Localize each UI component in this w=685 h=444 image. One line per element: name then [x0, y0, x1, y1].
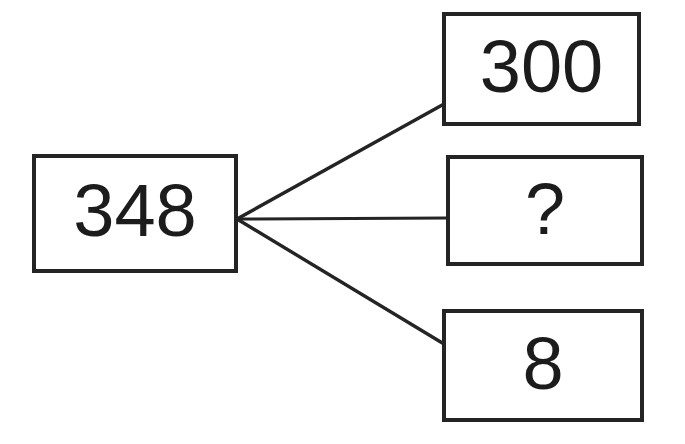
- connector-to-ones: [237, 219, 444, 344]
- connector-to-hundreds: [237, 104, 444, 219]
- unknown-part-label: ?: [525, 173, 565, 249]
- hundreds-part-box: 300: [442, 12, 641, 126]
- hundreds-part-label: 300: [480, 30, 603, 108]
- diagram-canvas: 348 300 ? 8: [0, 0, 685, 444]
- root-number-box: 348: [32, 154, 238, 273]
- unknown-part-box: ?: [446, 155, 644, 266]
- connector-to-unknown: [237, 218, 448, 219]
- root-number-label: 348: [73, 174, 196, 254]
- ones-part-box: 8: [442, 309, 644, 422]
- ones-part-label: 8: [522, 327, 563, 405]
